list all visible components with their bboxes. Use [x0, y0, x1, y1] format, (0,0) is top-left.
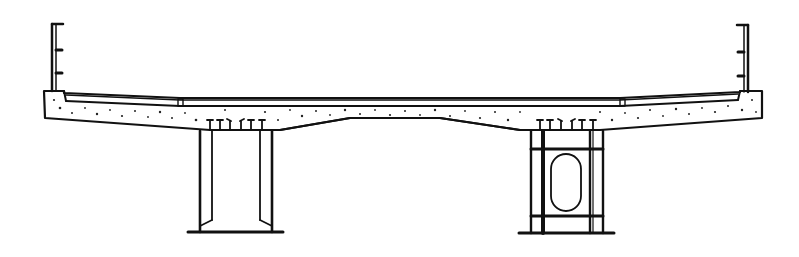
left-railing [52, 24, 63, 91]
right-girder [519, 131, 614, 233]
concrete-deck-slab [44, 91, 762, 130]
access-opening [551, 154, 581, 211]
right-railing [737, 25, 748, 92]
diagram-canvas [0, 0, 799, 257]
right-shear-connectors [537, 119, 596, 130]
left-girder [188, 131, 283, 232]
left-shear-connectors [207, 119, 265, 130]
